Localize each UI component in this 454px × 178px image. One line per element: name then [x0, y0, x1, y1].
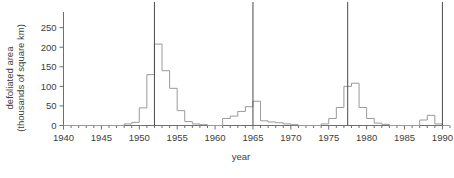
x-axis-ticks: [64, 126, 451, 130]
annotation-markers-layer: [154, 2, 442, 126]
defoliation-time-series-chart: 1940194519501955196019651970197519801985…: [0, 0, 454, 178]
x-tick-label-1975: 1975: [318, 132, 339, 143]
y-tick-label-0: 0: [51, 120, 56, 131]
x-axis: [64, 126, 451, 130]
x-tick-label-1980: 1980: [356, 132, 377, 143]
x-tick-label-1955: 1955: [167, 132, 188, 143]
x-tick-label-1950: 1950: [129, 132, 150, 143]
data-series-0: [64, 44, 451, 125]
x-tick-label-1960: 1960: [204, 132, 225, 143]
chart-container: 1940194519501955196019651970197519801985…: [0, 0, 454, 178]
y-tick-label-250: 250: [41, 22, 57, 33]
y-tick-label-50: 50: [46, 100, 57, 111]
y-tick-label-100: 100: [41, 81, 57, 92]
y-axis-title-line2: (thousands of square km): [15, 24, 26, 132]
y-axis: [60, 12, 64, 126]
data-series-layer: [64, 44, 451, 125]
tick-labels-layer: 1940194519501955196019651970197519801985…: [41, 22, 453, 142]
x-tick-label-1965: 1965: [242, 132, 263, 143]
x-tick-label-1970: 1970: [280, 132, 301, 143]
y-axis-ticks: [60, 28, 64, 126]
y-tick-label-150: 150: [41, 61, 57, 72]
y-axis-title-line1: defoliated area: [4, 46, 15, 110]
x-tick-label-1940: 1940: [53, 132, 74, 143]
y-tick-label-200: 200: [41, 42, 57, 53]
x-tick-label-1945: 1945: [91, 132, 112, 143]
x-tick-label-1985: 1985: [394, 132, 415, 143]
x-tick-label-1990: 1990: [432, 132, 453, 143]
x-axis-title: year: [232, 151, 250, 162]
